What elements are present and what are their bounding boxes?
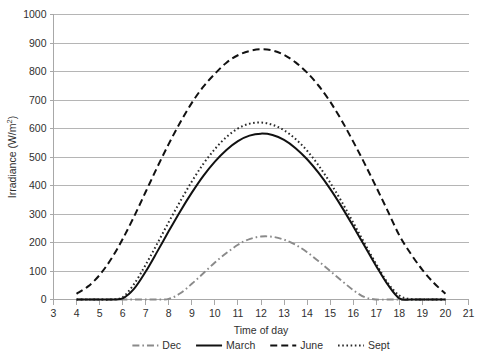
x-tick-label-15: 15 bbox=[324, 307, 336, 319]
legend-label-sept: Sept bbox=[368, 339, 390, 351]
y-tick-label-200: 200 bbox=[29, 236, 47, 248]
x-tick-label-4: 4 bbox=[74, 307, 80, 319]
x-tick-label-18: 18 bbox=[393, 307, 405, 319]
x-tick-label-17: 17 bbox=[370, 307, 382, 319]
x-tick-label-5: 5 bbox=[97, 307, 103, 319]
irradiance-chart: 01002003004005006007008009001000 3456789… bbox=[0, 0, 482, 364]
y-axis-title: Irradiance (W/m2) bbox=[5, 116, 19, 198]
series-line-june bbox=[77, 49, 446, 294]
x-tick-label-10: 10 bbox=[209, 307, 221, 319]
x-tick-label-21: 21 bbox=[463, 307, 475, 319]
chart-legend: DecMarchJuneSept bbox=[132, 339, 389, 351]
x-tick-label-7: 7 bbox=[143, 307, 149, 319]
x-axis-tick-labels: 3456789101112131415161718192021 bbox=[51, 307, 475, 319]
data-series-group bbox=[77, 49, 446, 300]
x-tick-label-12: 12 bbox=[255, 307, 267, 319]
x-axis-title: Time of day bbox=[234, 324, 289, 336]
y-tick-label-300: 300 bbox=[29, 208, 47, 220]
y-tick-label-600: 600 bbox=[29, 122, 47, 134]
series-line-march bbox=[77, 134, 446, 300]
axis-tickmarks bbox=[50, 15, 469, 305]
y-axis-tick-labels: 01002003004005006007008009001000 bbox=[23, 8, 47, 305]
y-tick-label-900: 900 bbox=[29, 37, 47, 49]
y-tick-label-400: 400 bbox=[29, 179, 47, 191]
x-tick-label-20: 20 bbox=[440, 307, 452, 319]
x-tick-label-9: 9 bbox=[189, 307, 195, 319]
legend-item-march[interactable]: March bbox=[196, 339, 255, 351]
y-tick-label-800: 800 bbox=[29, 65, 47, 77]
gridlines bbox=[54, 15, 469, 272]
y-tick-label-1000: 1000 bbox=[23, 8, 47, 20]
y-tick-label-100: 100 bbox=[29, 265, 47, 277]
legend-item-sept[interactable]: Sept bbox=[338, 339, 390, 351]
x-tick-label-6: 6 bbox=[120, 307, 126, 319]
x-tick-label-3: 3 bbox=[51, 307, 57, 319]
x-tick-label-19: 19 bbox=[417, 307, 429, 319]
x-tick-label-16: 16 bbox=[347, 307, 359, 319]
legend-item-june[interactable]: June bbox=[270, 339, 323, 351]
x-tick-label-11: 11 bbox=[232, 307, 243, 319]
x-tick-label-14: 14 bbox=[301, 307, 313, 319]
x-tick-label-8: 8 bbox=[166, 307, 172, 319]
chart-canvas: 01002003004005006007008009001000 3456789… bbox=[0, 0, 482, 364]
legend-item-dec[interactable]: Dec bbox=[132, 339, 181, 351]
y-tick-label-0: 0 bbox=[41, 293, 47, 305]
legend-label-march: March bbox=[226, 339, 255, 351]
series-line-sept bbox=[77, 122, 446, 299]
legend-label-dec: Dec bbox=[162, 339, 181, 351]
y-tick-label-500: 500 bbox=[29, 151, 47, 163]
y-tick-label-700: 700 bbox=[29, 94, 47, 106]
x-tick-label-13: 13 bbox=[278, 307, 290, 319]
legend-label-june: June bbox=[300, 339, 323, 351]
